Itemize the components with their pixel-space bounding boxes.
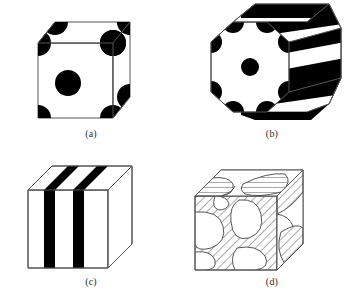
panel-c-drawing <box>0 152 182 280</box>
panel-d-caption: (d) <box>181 276 363 287</box>
panel-b-caption: (b) <box>181 128 363 139</box>
center-sphere-b <box>241 58 259 76</box>
panel-b-drawing <box>181 0 363 130</box>
front-network-d <box>195 196 277 270</box>
morphology-figure: (a) <box>0 0 363 304</box>
panel-c-caption: (c) <box>0 276 182 287</box>
panel-a-drawing <box>0 0 182 130</box>
panel-d-drawing <box>181 152 363 280</box>
panel-b-cylindrical-banded: (b) <box>181 0 363 152</box>
panel-a-caption: (a) <box>0 128 182 139</box>
panel-c-lamellar: (c) <box>0 152 182 304</box>
panel-d-bicontinuous: (d) <box>181 152 363 304</box>
panel-a-spherical-dispersion: (a) <box>0 0 182 152</box>
